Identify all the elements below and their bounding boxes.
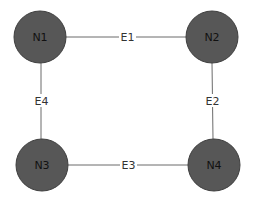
edge-label-e1: E1 xyxy=(121,31,135,44)
node-n2[interactable]: N2 xyxy=(186,11,238,63)
edge-label-e2: E2 xyxy=(206,95,220,108)
edge-label-e3: E3 xyxy=(122,159,136,172)
node-n4[interactable]: N4 xyxy=(188,139,240,191)
graph-canvas: E1 E2 E3 E4 N1 N2 N3 N4 xyxy=(0,0,253,202)
node-label-n3: N3 xyxy=(34,159,49,172)
node-n1[interactable]: N1 xyxy=(14,11,66,63)
node-label-n2: N2 xyxy=(204,31,219,44)
node-n3[interactable]: N3 xyxy=(16,139,68,191)
edge-label-e4: E4 xyxy=(35,95,49,108)
node-label-n4: N4 xyxy=(206,159,221,172)
node-label-n1: N1 xyxy=(32,31,47,44)
